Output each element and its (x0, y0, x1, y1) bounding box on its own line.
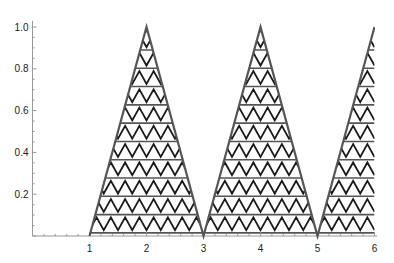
zigzag-hatch-fill (90, 16, 375, 233)
hatch-zigzag (90, 162, 375, 175)
y-tick-label: 0.4 (15, 147, 29, 158)
x-tick-label: 3 (201, 243, 207, 254)
hatch-zigzag (90, 144, 375, 157)
triangle-wave-outline (90, 27, 375, 236)
hatch-zigzag (90, 199, 375, 212)
x-tick-label: 2 (144, 243, 150, 254)
y-tick-label: 0.8 (15, 63, 29, 74)
x-tick-label: 1 (87, 243, 93, 254)
y-tick-label: 0.2 (15, 189, 29, 200)
hatch-zigzag (90, 217, 375, 230)
hatch-zigzag (90, 53, 375, 66)
x-tick-label: 6 (372, 243, 378, 254)
chart: 1234560.20.40.60.81.0 (0, 0, 394, 263)
y-tick-label: 0.6 (15, 105, 29, 116)
hatch-zigzag (90, 16, 375, 29)
y-tick-label: 1.0 (15, 22, 29, 33)
hatch-zigzag (90, 34, 375, 47)
outline-path (90, 27, 375, 236)
hatch-zigzag (90, 89, 375, 102)
hatch-zigzag (90, 108, 375, 121)
x-tick-label: 5 (315, 243, 321, 254)
x-tick-label: 4 (258, 243, 264, 254)
